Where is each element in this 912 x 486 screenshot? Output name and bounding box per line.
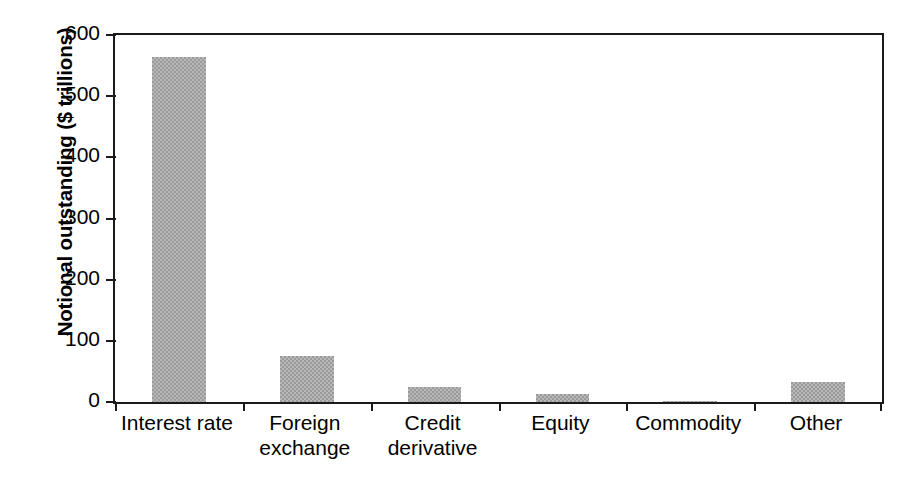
bar-chart-figure: Notional outstanding ($ trillions) 600 5…	[0, 0, 912, 486]
bar	[791, 382, 845, 402]
y-tick-label: 400	[30, 144, 100, 165]
bar	[280, 356, 334, 402]
y-tick-label: 0	[30, 389, 100, 410]
x-category-label: Interest rate	[113, 410, 241, 435]
bar	[152, 57, 206, 402]
x-category-label: Equity	[497, 410, 625, 435]
x-category-label: Commodity	[624, 410, 752, 435]
y-tick-label: 100	[30, 328, 100, 349]
bar	[536, 394, 590, 402]
plot-area	[113, 33, 884, 404]
y-tick-label: 600	[30, 22, 100, 43]
bar-series	[115, 35, 882, 402]
x-category-label: Other	[752, 410, 880, 435]
y-tick-label: 300	[30, 206, 100, 227]
bar	[408, 387, 462, 402]
x-category-label: Foreign exchange	[241, 410, 369, 460]
x-axis-category-labels: Interest rateForeign exchangeCredit deri…	[113, 410, 884, 480]
bar	[663, 401, 717, 403]
y-axis-tick-labels: 600 500 400 300 200 100 0	[30, 0, 100, 486]
y-tick-label: 200	[30, 267, 100, 288]
y-tick-label: 500	[30, 83, 100, 104]
x-category-label: Credit derivative	[369, 410, 497, 460]
